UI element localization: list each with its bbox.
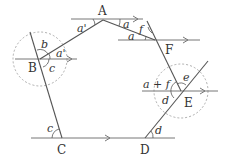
angle-label: c [49,62,55,75]
angle-label: d [155,124,162,137]
angle-label: f [138,23,145,36]
point-label-d: D [140,143,150,157]
angle-label: d [162,94,169,107]
angle-arc [171,82,176,98]
angle-label: a [128,30,135,43]
angle-arc [119,19,120,26]
point-label-f: F [165,43,173,57]
point-label-e: E [184,96,193,110]
angle-label: a + f [143,78,172,91]
angle-label: c [47,122,53,135]
angle-label: e [183,71,190,84]
angle-label: a' [77,22,87,35]
point-label-c: C [57,143,66,157]
edge-ab [40,20,103,59]
angle-arc [49,54,50,59]
angle-arc [151,131,153,138]
point-label-a: A [97,4,107,18]
geometry-diagram: A B C D E F a' a f a b a' c c a + f e d … [0,0,231,161]
angle-label: b [41,38,48,51]
point-label-b: B [28,61,37,75]
angle-arc [93,19,95,25]
angle-label: a' [56,47,66,60]
